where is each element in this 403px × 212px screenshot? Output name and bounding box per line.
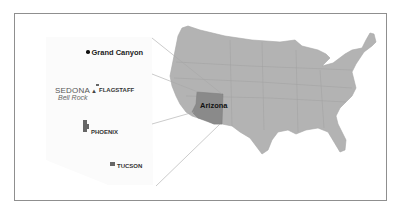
- us-mainland-shape: [170, 26, 376, 154]
- place-phoenix: PHOENIX: [91, 129, 118, 135]
- place-flagstaff: FLAGSTAFF: [99, 87, 134, 93]
- place-tucson: TUCSON: [117, 163, 142, 169]
- arizona-label: Arizona: [200, 101, 228, 110]
- mountain-triangle-icon: ▲: [91, 88, 97, 94]
- dot-icon: [86, 50, 90, 54]
- tucson-city-icon: [110, 162, 115, 166]
- place-bell-rock: Bell Rock: [58, 94, 88, 101]
- place-grand-canyon: Grand Canyon: [86, 48, 143, 57]
